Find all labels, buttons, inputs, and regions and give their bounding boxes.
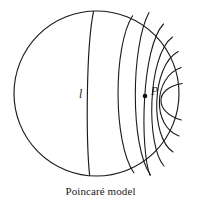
line-l-label: l xyxy=(79,89,82,101)
geodesic-g4 xyxy=(152,37,173,166)
poincare-disk-diagram xyxy=(0,0,201,207)
geodesic-g1 xyxy=(118,16,134,173)
point-P-marker xyxy=(143,94,148,99)
point-p-label: P xyxy=(151,86,158,98)
figure-caption: Poincaré model xyxy=(0,185,201,197)
geodesic-g2 xyxy=(135,13,150,175)
geodesic-line-l xyxy=(87,12,93,176)
poincare-model-figure: l P Poincaré model xyxy=(0,0,201,207)
